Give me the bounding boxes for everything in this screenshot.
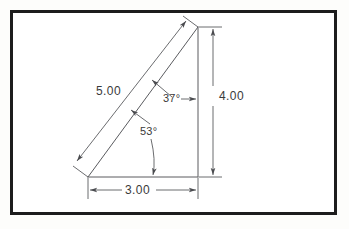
dimension-label-base: 3.00: [125, 183, 150, 197]
dimension-label-vertical: 4.00: [219, 89, 244, 103]
triangle-outline: [88, 27, 198, 177]
triangle-hypotenuse-line: [88, 27, 198, 177]
drawing-page: 5.00 4.00 3.00 37° 53°: [0, 0, 349, 229]
angle-base-left-group: [131, 110, 154, 175]
triangle-drawing-canvas: [0, 0, 349, 229]
angle-label-base-left: 53°: [140, 125, 157, 137]
extension-line-hyp-lower: [73, 166, 88, 177]
dimension-label-hypotenuse: 5.00: [96, 84, 121, 98]
angle-label-apex: 37°: [163, 92, 180, 104]
angle-arc-53-to-base: [151, 139, 154, 175]
dimension-line-hypotenuse: [77, 21, 186, 161]
angle-leader-53-to-hypotenuse: [131, 110, 150, 124]
